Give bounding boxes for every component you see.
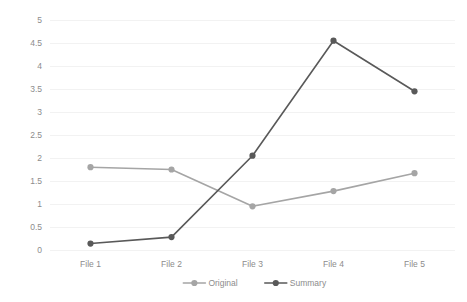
y-axis-tick-label: 5 xyxy=(37,15,42,25)
legend-label: Original xyxy=(208,278,237,288)
x-axis-tick-label: File 5 xyxy=(404,259,425,269)
data-point-marker xyxy=(87,164,93,170)
chart-background xyxy=(0,0,467,302)
data-point-marker xyxy=(168,166,174,172)
chart-canvas: 00.511.522.533.544.55 File 1File 2File 3… xyxy=(0,0,467,302)
data-point-marker xyxy=(330,188,336,194)
y-axis-tick-label: 0.5 xyxy=(30,222,42,232)
x-axis-tick-label: File 4 xyxy=(323,259,344,269)
legend-label: Summary xyxy=(290,278,327,288)
legend-swatch-marker xyxy=(273,280,279,286)
data-point-marker xyxy=(87,240,93,246)
y-axis-tick-label: 0 xyxy=(37,245,42,255)
data-point-marker xyxy=(249,153,255,159)
x-axis-tick-label: File 1 xyxy=(80,259,101,269)
data-point-marker xyxy=(168,234,174,240)
data-point-marker xyxy=(411,88,417,94)
legend-swatch-marker xyxy=(191,280,197,286)
y-axis-tick-label: 1.5 xyxy=(30,176,42,186)
data-point-marker xyxy=(330,38,336,44)
x-axis-tick-label: File 3 xyxy=(242,259,263,269)
y-axis-tick-label: 3.5 xyxy=(30,84,42,94)
y-axis-tick-label: 4.5 xyxy=(30,38,42,48)
x-axis-tick-label: File 2 xyxy=(161,259,182,269)
y-axis-tick-label: 4 xyxy=(37,61,42,71)
line-chart: 00.511.522.533.544.55 File 1File 2File 3… xyxy=(0,0,467,302)
y-axis-tick-label: 2 xyxy=(37,153,42,163)
data-point-marker xyxy=(411,170,417,176)
data-point-marker xyxy=(249,203,255,209)
y-axis-tick-label: 2.5 xyxy=(30,130,42,140)
y-axis-tick-label: 1 xyxy=(37,199,42,209)
y-axis-tick-label: 3 xyxy=(37,107,42,117)
